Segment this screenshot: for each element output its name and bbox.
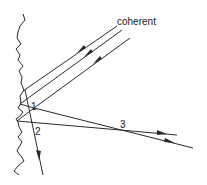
downward-arrow-icon (36, 150, 41, 160)
point-1-label: 1 (31, 101, 37, 112)
incident-arrow-2-icon (84, 49, 93, 57)
outgoing-arrow-a-icon (164, 138, 175, 143)
scattered-ray-b (17, 121, 177, 135)
scattering-diagram: coherent 1 2 3 (0, 0, 207, 185)
point-2-label: 2 (35, 126, 41, 137)
rough-surface (14, 14, 25, 175)
point-3-label: 3 (120, 119, 126, 130)
incident-arrow-1-icon (77, 45, 86, 53)
beam-label: coherent (117, 16, 156, 27)
incident-beam-2 (20, 30, 122, 104)
